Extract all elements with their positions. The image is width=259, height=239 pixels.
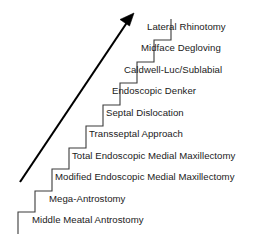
- step-label-1: Middle Meatal Antrostomy: [32, 214, 144, 225]
- arrow-head: [120, 13, 134, 26]
- step-label-2: Mega-Antrostomy: [49, 193, 125, 204]
- step-label-3: Modified Endoscopic Medial Maxillectomy: [55, 171, 235, 182]
- step-label-7: Endoscopic Denker: [112, 85, 196, 96]
- step-label-10: Lateral Rhinotomy: [147, 21, 226, 32]
- step-label-5: Transseptal Approach: [89, 128, 183, 139]
- staircase-diagram: Middle Meatal Antrostomy Mega-Antrostomy…: [0, 0, 259, 239]
- step-label-6: Septal Dislocation: [106, 107, 184, 118]
- step-label-4: Total Endoscopic Medial Maxillectomy: [72, 150, 235, 161]
- staircase-graphic: [0, 0, 259, 239]
- step-label-8: Caldwell-Luc/Sublabial: [124, 64, 222, 75]
- step-label-9: Midface Degloving: [141, 42, 221, 53]
